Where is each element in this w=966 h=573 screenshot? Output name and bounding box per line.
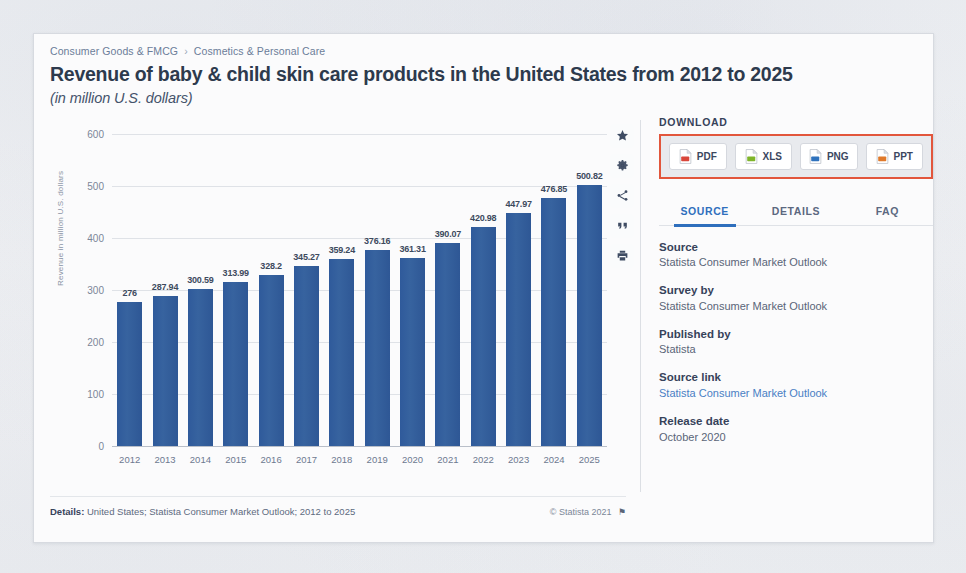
chart-action-rail xyxy=(610,124,634,268)
bar[interactable] xyxy=(577,185,602,445)
bar-value-label: 359.24 xyxy=(329,245,355,255)
chart-details-key: Details: xyxy=(50,506,84,517)
bar-group[interactable]: 300.592014 xyxy=(183,134,218,446)
bar-value-label: 361.31 xyxy=(399,244,425,254)
file-icon xyxy=(679,149,692,164)
download-pdf-button[interactable]: PDF xyxy=(669,143,727,170)
bar-group[interactable]: 390.072021 xyxy=(430,134,465,446)
bar-value-label: 476.85 xyxy=(541,184,567,194)
bar-value-label: 500.82 xyxy=(576,171,602,181)
bar-value-label: 300.59 xyxy=(187,275,213,285)
download-section-label: DOWNLOAD xyxy=(659,116,933,128)
x-axis-tick: 2024 xyxy=(543,454,564,465)
meta-key: Release date xyxy=(659,413,933,430)
card-header: Consumer Goods & FMCG › Cosmetics & Pers… xyxy=(34,34,933,106)
meta-row: Survey byStatista Consumer Market Outloo… xyxy=(659,282,933,315)
bar-group[interactable]: 328.22016 xyxy=(253,134,288,446)
share-icon[interactable] xyxy=(610,184,634,208)
y-axis-tick: 500 xyxy=(87,180,104,191)
plot-area: 0100200300400500600 2762012287.942013300… xyxy=(112,134,607,446)
sidebar-column: DOWNLOAD PDFXLSPNGPPT SOURCEDETAILSFAQ S… xyxy=(641,116,933,534)
meta-value: Statista Consumer Market Outlook xyxy=(659,299,933,315)
source-metadata: SourceStatista Consumer Market OutlookSu… xyxy=(659,226,933,446)
bar-group[interactable]: 2762012 xyxy=(112,134,147,446)
page-subtitle: (in million U.S. dollars) xyxy=(50,90,917,106)
chart-details-value: United States; Statista Consumer Market … xyxy=(87,506,355,517)
bar-value-label: 287.94 xyxy=(152,282,178,292)
bar-value-label: 376.16 xyxy=(364,236,390,246)
bar-group[interactable]: 345.272017 xyxy=(289,134,324,446)
file-icon xyxy=(809,149,822,164)
x-axis-tick: 2018 xyxy=(331,454,352,465)
tab-details[interactable]: DETAILS xyxy=(750,205,841,225)
tab-source[interactable]: SOURCE xyxy=(659,205,750,225)
bar-value-label: 345.27 xyxy=(293,252,319,262)
x-axis-tick: 2019 xyxy=(367,454,388,465)
breadcrumb-item-0[interactable]: Consumer Goods & FMCG xyxy=(50,45,178,57)
bar[interactable] xyxy=(541,198,566,446)
bar[interactable] xyxy=(153,296,178,446)
download-buttons-highlight: PDFXLSPNGPPT xyxy=(659,134,933,179)
bar[interactable] xyxy=(435,243,460,446)
download-ppt-button[interactable]: PPT xyxy=(866,143,924,170)
favorite-star-icon[interactable] xyxy=(610,124,634,148)
y-axis-tick: 400 xyxy=(87,232,104,243)
statistic-card: Consumer Goods & FMCG › Cosmetics & Pers… xyxy=(33,33,934,543)
chart-column: Revenue in million U.S. dollars 01002003… xyxy=(34,116,640,534)
bar-group[interactable]: 447.972023 xyxy=(501,134,536,446)
page-title: Revenue of baby & child skin care produc… xyxy=(50,62,917,87)
meta-row: Published byStatista xyxy=(659,326,933,359)
bar[interactable] xyxy=(365,250,390,446)
y-axis-tick: 200 xyxy=(87,336,104,347)
bar-group[interactable]: 359.242018 xyxy=(324,134,359,446)
download-png-button[interactable]: PNG xyxy=(800,143,858,170)
download-xls-button[interactable]: XLS xyxy=(735,143,793,170)
bar[interactable] xyxy=(400,258,425,446)
x-axis-tick: 2023 xyxy=(508,454,529,465)
meta-row: Source linkStatista Consumer Market Outl… xyxy=(659,369,933,402)
bar-group[interactable]: 476.852024 xyxy=(536,134,571,446)
bar-group[interactable]: 361.312020 xyxy=(395,134,430,446)
breadcrumb-separator-icon: › xyxy=(181,45,191,57)
breadcrumb-item-1[interactable]: Cosmetics & Personal Care xyxy=(194,45,325,57)
statista-flag-icon: ⚑ xyxy=(618,507,626,517)
download-png-label: PNG xyxy=(827,151,849,162)
bar[interactable] xyxy=(259,275,284,446)
bar[interactable] xyxy=(506,213,531,446)
download-pdf-label: PDF xyxy=(697,151,717,162)
y-axis-tick: 600 xyxy=(87,128,104,139)
bar[interactable] xyxy=(117,302,142,446)
tab-faq[interactable]: FAQ xyxy=(842,205,933,225)
bar-value-label: 313.99 xyxy=(223,268,249,278)
file-icon xyxy=(876,149,889,164)
x-axis-tick: 2022 xyxy=(473,454,494,465)
bar-series: 2762012287.942013300.592014313.992015328… xyxy=(112,134,607,446)
chart-footer: Details: United States; Statista Consume… xyxy=(50,496,626,517)
y-axis-tick: 100 xyxy=(87,388,104,399)
bar-group[interactable]: 376.162019 xyxy=(360,134,395,446)
bar-group[interactable]: 313.992015 xyxy=(218,134,253,446)
bar[interactable] xyxy=(471,227,496,446)
bar[interactable] xyxy=(188,289,213,445)
bar[interactable] xyxy=(294,266,319,446)
y-axis-tick: 300 xyxy=(87,284,104,295)
meta-value[interactable]: Statista Consumer Market Outlook xyxy=(659,386,933,402)
bar-group[interactable]: 420.982022 xyxy=(466,134,501,446)
citation-quote-icon[interactable] xyxy=(610,214,634,238)
settings-gear-icon[interactable] xyxy=(610,154,634,178)
bar-group[interactable]: 500.822025 xyxy=(572,134,607,446)
copyright-text: © Statista 2021 xyxy=(550,507,612,517)
card-body: Revenue in million U.S. dollars 01002003… xyxy=(34,116,933,534)
bar[interactable] xyxy=(329,259,354,446)
meta-value: October 2020 xyxy=(659,430,933,446)
meta-row: SourceStatista Consumer Market Outlook xyxy=(659,239,933,272)
sidebar-tabs: SOURCEDETAILSFAQ xyxy=(659,205,933,226)
bar[interactable] xyxy=(223,282,248,445)
y-axis-tick: 0 xyxy=(98,440,104,451)
x-axis-tick: 2021 xyxy=(437,454,458,465)
y-axis-label: Revenue in million U.S. dollars xyxy=(56,170,65,285)
print-icon[interactable] xyxy=(610,244,634,268)
bar-group[interactable]: 287.942013 xyxy=(147,134,182,446)
chart-copyright: © Statista 2021 ⚑ xyxy=(550,507,626,517)
meta-key: Survey by xyxy=(659,282,933,299)
